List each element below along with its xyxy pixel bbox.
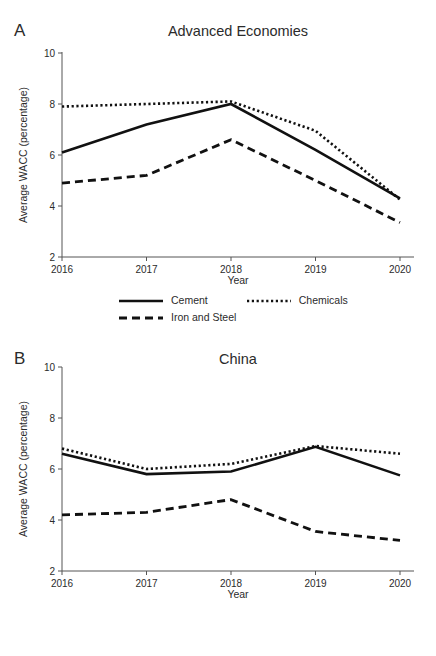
x-axis-title: Year [227, 588, 249, 600]
series-group-b [62, 446, 400, 540]
series-line-cement [62, 447, 400, 476]
y-tick-label: 8 [49, 99, 55, 110]
y-axis-group-b: 246810 Average WACC (percentage) [17, 362, 62, 577]
legend-entry-cement: Cement [118, 295, 208, 306]
x-tick-label: 2019 [304, 578, 327, 589]
y-axis-title: Average WACC (percentage) [17, 87, 29, 223]
x-tick-label: 2017 [135, 578, 158, 589]
y-tick-marks [58, 53, 62, 257]
chart-plot-advanced-economies: 246810 Average WACC (percentage) 2016201… [0, 0, 436, 292]
panel-china: B China 246810 Average WACC (percentage)… [0, 328, 436, 656]
y-tick-label: 2 [49, 566, 55, 577]
series-line-iron-and-steel [62, 140, 400, 223]
y-tick-label: 6 [49, 150, 55, 161]
x-tick-label: 2017 [135, 264, 158, 275]
x-axis-group-b: 20162017201820192020 Year [51, 571, 414, 600]
legend-key-cement-solid [118, 296, 164, 306]
x-axis-title: Year [227, 274, 249, 286]
y-tick-label: 10 [44, 362, 56, 373]
x-tick-label: 2020 [389, 264, 412, 275]
legend-key-chemicals-dotted [246, 296, 292, 306]
x-axis-group-a: 20162017201820192020 Year [51, 257, 414, 286]
series-line-chemicals [62, 101, 400, 199]
y-tick-label: 2 [49, 252, 55, 263]
y-axis-group-a: 246810 Average WACC (percentage) [17, 48, 62, 263]
legend-advanced-economies: Cement Chemicals Iron and Steel [0, 292, 436, 326]
y-tick-label: 8 [49, 413, 55, 424]
x-tick-label: 2016 [51, 264, 74, 275]
legend-label-iron-and-steel: Iron and Steel [171, 312, 236, 323]
y-tick-label: 4 [49, 515, 55, 526]
x-tick-label: 2020 [389, 578, 412, 589]
y-tick-label: 10 [44, 48, 56, 59]
legend-label-chemicals: Chemicals [299, 295, 348, 306]
legend-row-secondary: Iron and Steel [0, 309, 436, 326]
y-tick-labels: 246810 [44, 48, 56, 263]
series-group-a [62, 101, 400, 222]
x-tick-label: 2019 [304, 264, 327, 275]
legend-entry-chemicals: Chemicals [246, 295, 348, 306]
x-tick-marks [62, 571, 400, 575]
y-tick-label: 6 [49, 464, 55, 475]
legend-entry-iron-and-steel: Iron and Steel [118, 312, 236, 323]
y-axis-title: Average WACC (percentage) [17, 401, 29, 537]
legend-label-cement: Cement [171, 295, 208, 306]
x-tick-marks [62, 257, 400, 261]
y-tick-marks [58, 367, 62, 571]
y-tick-label: 4 [49, 201, 55, 212]
panel-advanced-economies: A Advanced Economies 246810 Average WACC… [0, 0, 436, 328]
legend-row-primary: Cement Chemicals [0, 292, 436, 309]
chart-plot-china: 246810 Average WACC (percentage) 2016201… [0, 328, 436, 620]
series-line-cement [62, 104, 400, 198]
legend-key-iron-and-steel-dashed [118, 313, 164, 323]
figure-container: A Advanced Economies 246810 Average WACC… [0, 0, 436, 656]
series-line-iron-and-steel [62, 500, 400, 541]
x-tick-label: 2016 [51, 578, 74, 589]
y-tick-labels: 246810 [44, 362, 56, 577]
